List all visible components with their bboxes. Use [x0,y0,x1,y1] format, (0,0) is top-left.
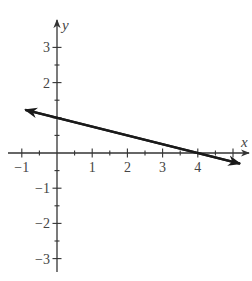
y-tick-label: 3 [43,40,50,55]
y-axis-label: y [60,17,69,33]
x-tick-label: 1 [89,160,96,175]
x-tick-label: 2 [124,160,131,175]
coordinate-plane: −11234 32−1−2−3 x y [0,0,252,281]
x-tick-label: 4 [194,160,201,175]
x-tick-label: −1 [14,160,29,175]
x-axis-label: x [240,134,248,150]
y-tick-label: −1 [35,181,50,196]
y-axis [53,20,62,272]
y-tick-label: −3 [35,252,50,267]
y-tick-label: 2 [43,76,50,91]
x-tick-label: 3 [159,160,166,175]
x-tick-labels: −11234 [14,160,201,175]
y-tick-label: −2 [35,216,50,231]
